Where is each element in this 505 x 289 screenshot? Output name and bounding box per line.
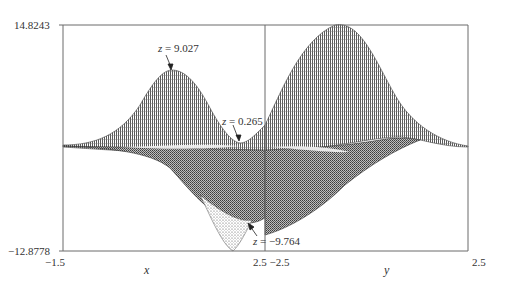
y-max-tick-label: 2.5	[472, 256, 486, 268]
mid-tick-label: 2.5 −2.5	[253, 256, 289, 268]
annotation-value: = −9.764	[257, 235, 300, 247]
annotation-saddle: z = 0.265	[222, 115, 263, 127]
x-min-tick-label: −1.5	[45, 256, 65, 268]
x-axis-label: x	[144, 264, 149, 276]
left-panel-surface	[63, 70, 265, 251]
y-axis-label: y	[384, 264, 389, 276]
annotation-value: = 0.265	[226, 115, 262, 127]
right-panel-surface	[265, 25, 468, 235]
annotation-local-max: z = 9.027	[158, 42, 199, 54]
annotation-local-min: z = −9.764	[253, 235, 300, 247]
z-max-tick-label: 14.8243	[14, 19, 50, 31]
annotation-value: = 9.027	[162, 42, 198, 54]
z-min-tick-label: −12.8778	[8, 245, 50, 257]
